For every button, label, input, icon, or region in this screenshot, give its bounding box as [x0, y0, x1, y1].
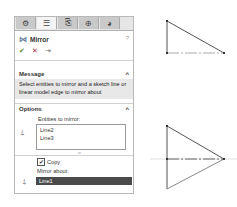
sketch-viewport[interactable]	[0, 0, 237, 207]
sketch-after-mirror	[150, 125, 237, 189]
sketch-before-mirror	[166, 20, 225, 54]
